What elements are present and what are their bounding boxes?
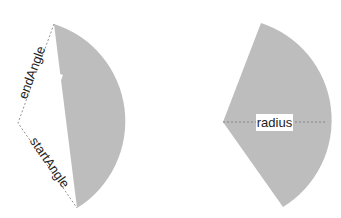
diagram-canvas: endAngle startAngle radius — [0, 0, 341, 218]
radius-label: radius — [257, 115, 293, 130]
right-sector-figure: radius — [223, 23, 332, 207]
left-segment-figure: endAngle startAngle — [0, 24, 125, 208]
